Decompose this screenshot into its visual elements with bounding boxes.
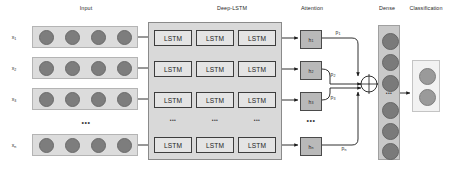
dense-node [382, 123, 399, 140]
input-vector-n[interactable] [32, 134, 138, 156]
input-node [65, 61, 80, 76]
section-title-dense: Dense [379, 5, 395, 11]
lstm-cell-r3-c1[interactable]: LSTM [154, 92, 192, 108]
input-vector-1[interactable] [32, 26, 138, 48]
lstm-column-1-ellipsis: ••• [170, 117, 176, 123]
input-node [39, 30, 54, 45]
input-ellipsis: ••• [81, 119, 90, 126]
attention-weight-p3: p3 [331, 94, 336, 100]
input-node [65, 30, 80, 45]
section-title-deep-lstm: Deep-LSTM [217, 5, 247, 11]
dense-node [382, 33, 399, 50]
input-node [117, 30, 132, 45]
input-node [91, 30, 106, 45]
lstm-cell-r2-c1[interactable]: LSTM [154, 61, 192, 77]
attention-weight-p1: p1 [336, 29, 341, 35]
lstm-cell-r2-c2[interactable]: LSTM [196, 61, 234, 77]
dense-node [382, 54, 399, 71]
input-node [91, 138, 106, 153]
lstm-cell-r2-c3[interactable]: LSTM [238, 61, 276, 77]
sum-node [360, 74, 378, 94]
input-vector-3[interactable] [32, 88, 138, 110]
lstm-cell-r1-c2[interactable]: LSTM [196, 30, 234, 46]
input-row-label-x1: x1 [12, 34, 17, 40]
input-node [117, 138, 132, 153]
input-node [117, 61, 132, 76]
input-row-label-xn: xn [12, 142, 17, 148]
path-p3-to-sum [322, 88, 361, 100]
classification-panel[interactable] [412, 60, 440, 112]
classification-node [419, 68, 436, 85]
attention-cell-h2[interactable]: h2 [300, 61, 322, 80]
input-node [91, 61, 106, 76]
classification-node [419, 89, 436, 106]
input-node [65, 138, 80, 153]
section-title-input: Input [80, 5, 93, 11]
section-title-attention: Attention [301, 5, 323, 11]
attention-ellipsis: ••• [306, 117, 315, 124]
dense-ellipsis: ••• [386, 90, 392, 96]
input-node [65, 92, 80, 107]
architecture-diagram: Input Deep-LSTM Attention Dense Classifi… [0, 0, 456, 169]
input-node [39, 92, 54, 107]
lstm-cell-r3-c2[interactable]: LSTM [196, 92, 234, 108]
lstm-column-3-ellipsis: ••• [254, 117, 260, 123]
path-pn-to-sum [322, 92, 358, 145]
input-node [39, 61, 54, 76]
section-title-classification: Classification [409, 5, 442, 11]
input-row-label-x3: x3 [12, 96, 17, 102]
input-node [39, 138, 54, 153]
input-vector-2[interactable] [32, 57, 138, 79]
attention-weight-pn: pn [342, 145, 347, 151]
attention-weight-p2: p2 [331, 71, 336, 77]
input-node [117, 92, 132, 107]
input-row-label-x2: x2 [12, 65, 17, 71]
lstm-cell-rn-c2[interactable]: LSTM [196, 137, 234, 153]
input-node [91, 92, 106, 107]
lstm-cell-r1-c3[interactable]: LSTM [238, 30, 276, 46]
lstm-cell-r1-c1[interactable]: LSTM [154, 30, 192, 46]
lstm-cell-rn-c3[interactable]: LSTM [238, 137, 276, 153]
dense-node [382, 102, 399, 119]
lstm-column-2-ellipsis: ••• [212, 117, 218, 123]
attention-cell-hn[interactable]: hn [300, 137, 322, 156]
dense-node [382, 143, 399, 160]
lstm-cell-rn-c1[interactable]: LSTM [154, 137, 192, 153]
attention-cell-h3[interactable]: h3 [300, 92, 322, 111]
path-p2-to-sum [322, 69, 361, 84]
lstm-cell-r3-c3[interactable]: LSTM [238, 92, 276, 108]
attention-cell-h1[interactable]: h1 [300, 30, 322, 49]
